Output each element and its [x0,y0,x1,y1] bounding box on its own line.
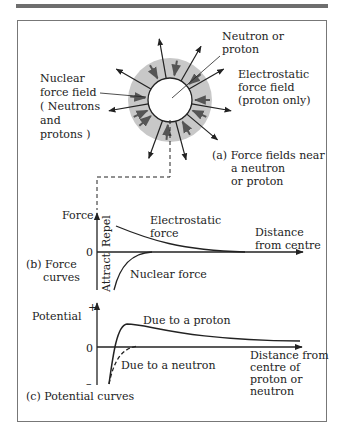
caption-a-3: or proton [231,175,283,188]
figure-svg: Neutron or proton Nuclear force field ( … [0,0,344,429]
potential-zero-label: 0 [86,342,93,355]
force-x-label-1: Distance [255,226,304,239]
label-neutron-or-proton-2: proton [222,43,259,56]
caption-a-2: a neutron [231,162,285,175]
neutron-label: Due to a neutron [121,359,216,372]
nuclear-field-arrow [167,125,168,140]
label-nuclear-5: protons ) [40,128,90,141]
particle-circle [148,78,192,122]
label-electrostatic-2: force field [238,81,295,94]
electrostatic-force-label-1: Electrostatic [150,214,221,227]
label-nuclear-4: and [40,114,61,127]
force-zero-label: 0 [86,246,93,259]
caption-b-2: curves [43,271,80,284]
potential-minus-label: – [86,377,92,390]
caption-c: (c) Potential curves [26,390,135,403]
label-nuclear-3: ( Neutrons [40,100,100,113]
label-electrostatic-1: Electrostatic [238,68,309,81]
electrostatic-force-curve [116,226,245,252]
label-nuclear-1: Nuclear [40,72,85,85]
caption-b-1: (b) Force [26,258,77,271]
potential-axis-label: Potential [32,310,82,323]
caption-a-1: (a) Force fields near [212,149,325,162]
repel-label: Repel [100,215,113,247]
particle-diagram [97,39,231,210]
nuclear-force-label: Nuclear force [130,268,207,281]
potential-x-label-4: neutron [250,385,294,398]
proton-label: Due to a proton [143,314,231,327]
attract-label: Attract [100,252,113,293]
label-nuclear-2: force field [40,86,97,99]
electrostatic-force-label-2: force [150,227,179,240]
potential-plus-label: + [88,301,97,314]
label-electrostatic-3: (proton only) [238,94,311,107]
label-neutron-or-proton-1: Neutron or [222,30,285,43]
force-x-label-2: from centre [255,239,321,252]
force-axis-label: Force [62,209,94,222]
